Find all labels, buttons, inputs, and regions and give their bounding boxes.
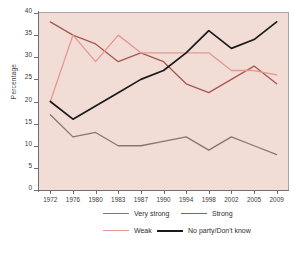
y-tick-label: 25 [14,76,32,77]
legend-item-very-strong[interactable]: Very strong [103,210,169,217]
x-tick-mark [277,190,278,194]
y-tick-mark [34,57,38,58]
chart-legend: Very strong Strong Weak No party/Don't k… [0,210,301,244]
x-tick-mark [164,190,165,194]
series-line [50,115,276,155]
legend-row-1: Very strong Strong [0,210,301,227]
legend-label-weak: Weak [134,227,152,234]
x-tick-mark [96,190,97,194]
y-tick-mark [34,124,38,125]
series-lines [39,13,288,190]
y-tick-label: 35 [14,32,32,33]
y-tick-label: 10 [14,143,32,144]
y-tick-mark [34,190,38,191]
x-tick-mark [50,190,51,194]
y-tick-mark [34,146,38,147]
legend-row-2: Weak No party/Don't know [0,227,301,244]
legend-swatch-strong [181,213,207,214]
y-tick-label: 30 [14,54,32,55]
x-tick-mark [186,190,187,194]
legend-label-very-strong: Very strong [134,210,169,217]
x-tick-mark [209,190,210,194]
legend-swatch-very-strong [103,213,129,214]
legend-item-weak[interactable]: Weak [103,227,152,234]
y-tick-mark [34,35,38,36]
y-tick-label: 20 [14,99,32,100]
y-tick-mark [34,168,38,169]
y-tick-mark [34,79,38,80]
x-tick-mark [73,190,74,194]
x-tick-mark [231,190,232,194]
legend-swatch-no-party [157,230,183,232]
y-axis-title: Percentage [10,47,17,117]
x-tick-label: 2009 [264,196,290,203]
y-tick-label: 5 [14,165,32,166]
legend-item-no-party[interactable]: No party/Don't know [157,227,251,234]
legend-label-no-party: No party/Don't know [188,227,251,234]
legend-swatch-weak [103,230,129,231]
y-tick-label: 40 [14,10,32,11]
legend-item-strong[interactable]: Strong [181,210,233,217]
x-tick-mark [254,190,255,194]
series-line [50,22,276,93]
x-tick-mark [118,190,119,194]
y-tick-label: 0 [14,187,32,188]
y-tick-mark [34,13,38,14]
x-tick-mark [141,190,142,194]
y-tick-label: 15 [14,121,32,122]
plot-frame-right [288,12,289,190]
series-line [50,35,276,101]
chart-figure: Percentage 0510152025303540 197219761980… [0,0,301,253]
legend-label-strong: Strong [212,210,233,217]
y-tick-mark [34,102,38,103]
